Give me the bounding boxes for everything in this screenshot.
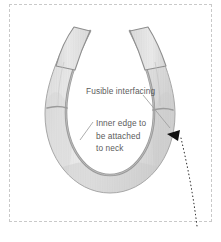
dotted-pointer-line — [181, 138, 197, 226]
leader-line-inner-edge — [80, 122, 93, 140]
label-inner-edge: Inner edge tobe attachedto neck — [96, 117, 146, 155]
label-inner-edge-line-3: to neck — [96, 143, 123, 153]
leader-line-fusible — [143, 95, 170, 128]
label-inner-edge-line-1: Inner edge to — [96, 118, 146, 128]
arrowhead-marker — [167, 130, 180, 141]
diagram-canvas: Fusible interfacing Inner edge tobe atta… — [0, 0, 221, 242]
label-inner-edge-line-2: be attached — [96, 131, 140, 141]
label-fusible-interfacing: Fusible interfacing — [86, 85, 155, 98]
